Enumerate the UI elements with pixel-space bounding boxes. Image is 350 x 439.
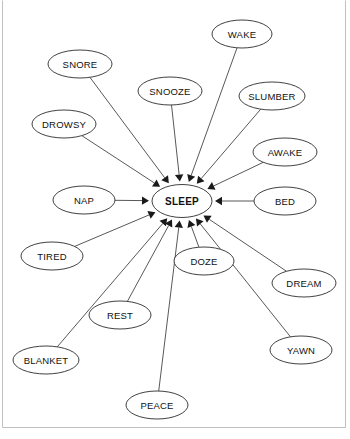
- arrowhead-slumber-to-sleep: [197, 176, 205, 184]
- node-label-rest: REST: [107, 310, 133, 321]
- node-label-dream: DREAM: [286, 278, 321, 289]
- node-label-wake: WAKE: [228, 29, 256, 40]
- edge-rest-to-sleep: [127, 226, 168, 302]
- node-label-slumber: SLUMBER: [248, 91, 295, 102]
- node-nap[interactable]: NAP: [53, 186, 115, 214]
- node-label-sleep: SLEEP: [165, 196, 199, 207]
- arrowhead-nap-to-sleep: [142, 196, 149, 204]
- edge-doze-to-sleep: [191, 227, 199, 248]
- node-tired[interactable]: TIRED: [21, 242, 83, 270]
- arrowhead-snooze-to-sleep: [175, 174, 183, 181]
- node-label-yawn: YAWN: [287, 345, 315, 356]
- node-blanket[interactable]: BLANKET: [13, 346, 79, 374]
- concept-network-canvas: WAKESNORESNOOZESLUMBERDROWSYAWAKENAPBEDT…: [0, 0, 350, 439]
- node-slumber[interactable]: SLUMBER: [239, 82, 305, 110]
- node-label-doze: DOZE: [190, 256, 217, 267]
- node-label-nap: NAP: [74, 195, 94, 206]
- node-awake[interactable]: AWAKE: [253, 138, 317, 166]
- arrowhead-blanket-to-sleep: [160, 218, 168, 226]
- node-label-drowsy: DROWSY: [42, 119, 86, 130]
- arrowhead-dream-to-sleep: [203, 215, 211, 222]
- node-rest[interactable]: REST: [89, 301, 151, 329]
- arrowhead-bed-to-sleep: [215, 197, 222, 205]
- node-label-blanket: BLANKET: [24, 355, 69, 366]
- concept-network-svg: WAKESNORESNOOZESLUMBERDROWSYAWAKENAPBEDT…: [0, 0, 350, 439]
- edge-tired-to-sleep: [75, 215, 149, 246]
- arrowhead-peace-to-sleep: [175, 220, 183, 227]
- edge-peace-to-sleep: [159, 227, 179, 391]
- node-sleep[interactable]: SLEEP: [152, 185, 212, 218]
- arrowhead-snore-to-sleep: [161, 175, 169, 183]
- node-label-snooze: SNOOZE: [149, 86, 190, 97]
- node-bed[interactable]: BED: [254, 187, 316, 215]
- node-yawn[interactable]: YAWN: [270, 336, 332, 364]
- arrowhead-drowsy-to-sleep: [152, 179, 160, 186]
- edge-snooze-to-sleep: [172, 105, 180, 175]
- node-snooze[interactable]: SNOOZE: [138, 77, 202, 105]
- edge-wake-to-sleep: [191, 48, 237, 176]
- arrowhead-yawn-to-sleep: [196, 218, 204, 226]
- node-drowsy[interactable]: DROWSY: [32, 110, 96, 138]
- node-dream[interactable]: DREAM: [272, 269, 336, 297]
- node-label-peace: PEACE: [140, 400, 173, 411]
- node-label-bed: BED: [275, 196, 295, 207]
- node-label-awake: AWAKE: [268, 147, 303, 158]
- node-label-snore: SNORE: [63, 59, 98, 70]
- node-snore[interactable]: SNORE: [48, 50, 112, 78]
- node-doze[interactable]: DOZE: [174, 247, 234, 275]
- nodes-layer: WAKESNORESNOOZESLUMBERDROWSYAWAKENAPBEDT…: [13, 20, 336, 419]
- node-peace[interactable]: PEACE: [126, 391, 188, 419]
- node-wake[interactable]: WAKE: [212, 20, 272, 48]
- edge-awake-to-sleep: [214, 162, 264, 186]
- node-label-tired: TIRED: [37, 251, 67, 262]
- edge-drowsy-to-sleep: [82, 136, 154, 183]
